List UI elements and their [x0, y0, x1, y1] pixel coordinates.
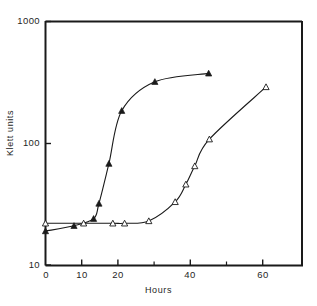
xtick-label-40: 40: [178, 269, 202, 280]
data-series-layer: [42, 70, 269, 233]
plot-frame: [46, 21, 304, 266]
series-line-0: [46, 73, 209, 231]
open-triangle-marker: [183, 181, 189, 187]
xtick-label-60: 60: [251, 269, 275, 280]
series-filled-triangle-series: [42, 70, 211, 233]
xtick-label-10: 10: [70, 269, 94, 280]
open-triangle-marker: [192, 163, 198, 169]
plot-canvas: [0, 0, 317, 306]
open-triangle-marker: [146, 218, 152, 224]
series-line-1: [46, 87, 267, 224]
y-axis-title: Klett units: [5, 103, 15, 163]
filled-triangle-marker: [119, 108, 125, 114]
filled-triangle-marker: [106, 161, 112, 167]
xtick-label-0: 0: [34, 269, 58, 280]
open-triangle-marker: [263, 84, 269, 90]
filled-triangle-marker: [152, 79, 158, 85]
ytick-label-1000: 1000: [2, 15, 40, 26]
xtick-label-20: 20: [106, 269, 130, 280]
series-open-triangle-series: [42, 84, 269, 226]
x-axis-title: Hours: [0, 285, 317, 295]
filled-triangle-marker: [96, 200, 102, 206]
growth-curve-figure: 1000 100 10 0 10 20 40 60 Klett units Ho…: [0, 0, 317, 306]
